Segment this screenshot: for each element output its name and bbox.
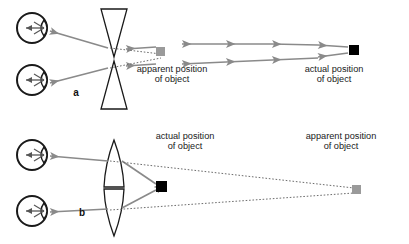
- optics-ray-diagram: apparent position of object actual posit…: [0, 0, 409, 244]
- apparent-object-marker-b: [352, 185, 361, 194]
- eye-symbol-b-top: [17, 140, 47, 170]
- eye-symbol-a-bottom: [17, 65, 47, 95]
- panel-letter-a: a: [73, 87, 79, 98]
- apparent-position-label-b-line1: apparent position: [306, 131, 377, 141]
- actual-position-label-a-line2: of object: [317, 74, 352, 84]
- actual-position-label-a-line1: actual position: [305, 64, 364, 74]
- apparent-position-label-a-line1: apparent position: [137, 64, 208, 74]
- apparent-position-label-a-line2: of object: [155, 74, 190, 84]
- actual-position-label-b-line2: of object: [168, 141, 203, 151]
- actual-object-marker-a: [349, 45, 359, 55]
- eye-symbol-a-top: [17, 13, 47, 43]
- apparent-position-label-b-line2: of object: [324, 141, 359, 151]
- figure-background: [0, 0, 409, 244]
- actual-object-marker-b: [156, 181, 167, 192]
- actual-position-label-b-line1: actual position: [156, 131, 215, 141]
- eye-symbol-b-bottom: [17, 196, 47, 226]
- panel-letter-b: b: [79, 207, 85, 218]
- apparent-object-marker-a: [156, 47, 165, 56]
